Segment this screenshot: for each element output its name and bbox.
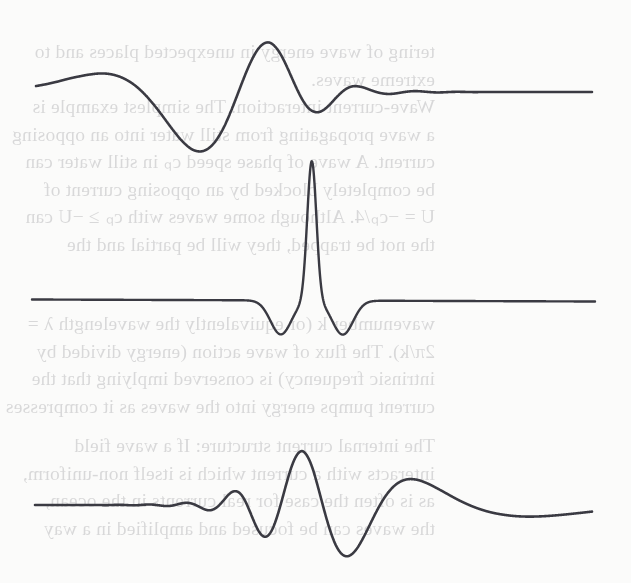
scanned-page: tering of wave energy in unexpected plac… xyxy=(0,0,631,583)
lower-chirp-svg xyxy=(0,400,631,583)
upper-chirp-waveform-path xyxy=(36,42,592,151)
middle-impulse-svg xyxy=(0,150,631,350)
plot-middle-impulse xyxy=(0,150,631,350)
middle-impulse-waveform-path xyxy=(32,161,595,334)
showthrough-line: intrinsic frequency) is conserved implyi… xyxy=(6,365,435,393)
plot-lower-chirp xyxy=(0,400,631,583)
lower-chirp-waveform-path xyxy=(35,451,592,556)
